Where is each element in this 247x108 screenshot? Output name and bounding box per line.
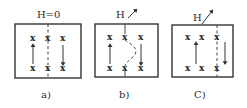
domain-wall-diagram: H=0 x x x x x x a) H x x x x x x b) — [0, 0, 247, 108]
x-mark: x — [122, 32, 128, 42]
x-mark: x — [138, 32, 144, 42]
panel-b: H x x x x x x b) — [95, 9, 158, 100]
x-mark: x — [60, 63, 66, 73]
panel-a: H=0 x x x x x x a) — [15, 9, 81, 100]
x-mark: x — [107, 63, 113, 73]
x-mark: x — [30, 63, 36, 73]
caption-c: C) — [194, 89, 206, 100]
x-mark: x — [199, 32, 205, 42]
caption-a: a) — [41, 89, 51, 100]
x-mark: x — [214, 63, 220, 73]
field-direction-arrow-icon — [128, 10, 136, 18]
x-mark: x — [122, 63, 128, 73]
panel-c: H x x x x x x C) — [172, 11, 233, 100]
x-mark: x — [45, 63, 51, 73]
x-mark: x — [214, 32, 220, 42]
field-label-h0: H=0 — [37, 9, 60, 20]
field-label-h: H — [193, 12, 202, 23]
x-mark: x — [45, 33, 51, 43]
x-mark: x — [60, 33, 66, 43]
x-mark: x — [138, 63, 144, 73]
x-mark: x — [107, 32, 113, 42]
x-mark: x — [185, 32, 191, 42]
x-mark: x — [30, 33, 36, 43]
caption-b: b) — [119, 89, 129, 100]
field-direction-arrow-icon — [202, 11, 212, 24]
field-label-h: H — [116, 9, 125, 20]
x-mark: x — [199, 63, 205, 73]
x-mark: x — [185, 63, 191, 73]
